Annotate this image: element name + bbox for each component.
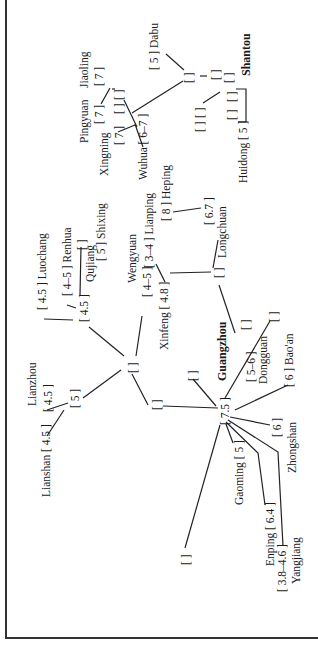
diagram-frame: [ 5 ] Dabu Shantou [ ] [ ] [ ] [ ] [ ] [… (0, 0, 318, 651)
node-shantou: Shantou (240, 33, 252, 76)
node-value: [ 5 ] (148, 51, 160, 70)
node-label: Pingyuan (78, 100, 90, 143)
node-label: Bao'an (283, 334, 295, 365)
node-label: Dongguan (257, 336, 269, 384)
node-label: Guangzhou (215, 322, 229, 381)
node-yangjiang: Yangjiang (290, 537, 302, 584)
node-lianping: [ 3–4 ] Lianping (143, 193, 155, 268)
empty-node: [ ] (127, 362, 139, 373)
empty-node: [ ] (226, 109, 238, 120)
node-jiaoling: Jiaoling (78, 52, 90, 88)
node-label: Huidong (237, 143, 249, 183)
node-value: [ 4.5 ] (40, 424, 52, 452)
node-lianzhou: Lianzhou (26, 363, 38, 406)
node-label: Heping (160, 165, 172, 199)
node-value: [ 4.8 ] (158, 282, 170, 310)
empty-node: [ ] (210, 69, 222, 80)
node-dongguan: Dongguan (257, 336, 269, 384)
node-value: [ 5 ] (95, 242, 107, 261)
empty-node: [ ] (180, 554, 192, 565)
node-label: Shantou (239, 33, 253, 76)
node-heping: [ 8 ] Heping (160, 165, 172, 221)
node-value: [ 4.5 ] (36, 282, 48, 310)
node-label: Dabu (148, 23, 160, 48)
node-wengyuan-value: [ 4–5 ] (141, 266, 153, 297)
node-label: Lianzhou (26, 363, 38, 406)
node-dongguan-value: [ 5–6 ] (245, 351, 257, 382)
node-wuhua: Wuhua [ 6–7 ] (137, 114, 149, 180)
empty-node: [ ] (113, 89, 125, 100)
node-lianshan: Lianshan [ 4.5 ] (40, 424, 52, 497)
node-luochang: [ 4.5 ] Luochang (36, 233, 48, 310)
node-value: [ 8 ] (160, 202, 172, 221)
empty-node: [ ] (268, 311, 280, 322)
node-label: Jiaoling (78, 52, 90, 88)
node-renhua: [ 4–5 ] Renhua (61, 227, 73, 296)
node-label: Xinfeng (158, 312, 170, 350)
node-longchuan: Longchuan (216, 206, 228, 258)
empty-node: [ ] (226, 91, 238, 102)
node-guangzhou: Guangzhou (216, 322, 228, 381)
node-label: Lianping (143, 193, 155, 235)
node-label: Renhua (61, 227, 73, 262)
node-shixing: [ 5 ] Shixing (95, 203, 107, 261)
node-gaoming: Gaoming [ 5 ] (233, 440, 245, 505)
node-wengyuan: Wengyuan (126, 234, 138, 283)
node-lian-junction-value: [ 5 ] (69, 389, 81, 408)
node-pingyuan: Pingyuan (78, 100, 90, 143)
node-label: Luochang (36, 233, 48, 279)
node-label: Xingning (98, 133, 110, 176)
node-longchuan-value: [ 6.7 ] (203, 197, 215, 225)
node-label: Lianshan (40, 455, 52, 497)
empty-node: [ ] (113, 103, 125, 114)
node-value: [ 6–7 ] (137, 114, 149, 145)
node-pingyuan-value: [ 7 ] (93, 105, 105, 124)
node-label: Wuhua (137, 147, 149, 180)
node-xingning-value: [ 7 ] (113, 126, 125, 145)
node-xinfeng: Xinfeng [ 4.8 ] (158, 282, 170, 350)
node-label: Shixing (95, 203, 107, 239)
node-value: [ 4–5 ] (61, 265, 73, 296)
empty-node: [ ] (194, 121, 206, 132)
node-lianzhou-value: [ 4.5 ] (42, 384, 54, 412)
node-zhongshan: Zhongshan (286, 422, 298, 473)
node-zhongshan-value: [ 6 ] (271, 418, 283, 437)
empty-node: [ ] (76, 239, 88, 250)
empty-node: [ ] (213, 267, 225, 278)
node-value: [ 5 ] (237, 121, 249, 140)
node-enping: Enping [ 6.4 ] (264, 502, 276, 566)
node-label: Longchuan (216, 206, 228, 258)
empty-node: [ ] (194, 107, 206, 118)
node-guangzhou-value: [ 7.5 ] (219, 397, 231, 425)
node-baoan: [ 6 ] Bao'an (283, 334, 295, 388)
empty-node: [ ] (151, 399, 163, 410)
node-jiaoling-value: [ 7 ] (93, 67, 105, 86)
node-value: [ 6.4 ] (264, 502, 276, 530)
node-label: Gaoming (233, 462, 245, 505)
node-value: [ 6 ] (283, 368, 295, 387)
empty-node: [ ] (183, 72, 195, 83)
empty-node: [ ] (187, 370, 199, 381)
node-label: Zhongshan (286, 422, 298, 473)
empty-node: [ ] (223, 72, 235, 83)
node-label: Wengyuan (126, 234, 138, 283)
node-label: Enping (264, 533, 276, 566)
node-huidong: Huidong [ 5 ] (237, 121, 249, 183)
node-value: [ 5 ] (233, 440, 245, 459)
node-xingning: Xingning (98, 133, 110, 176)
node-yangjiang-value: [ 3.8–4.6 ] (276, 544, 288, 592)
node-dabu: [ 5 ] Dabu (148, 23, 160, 70)
empty-node: [ ] (240, 319, 252, 330)
node-value: [ 3–4 ] (143, 237, 155, 268)
node-label: Yangjiang (290, 537, 302, 584)
node-qujiang-value: [ 4.5 ] (78, 294, 90, 322)
